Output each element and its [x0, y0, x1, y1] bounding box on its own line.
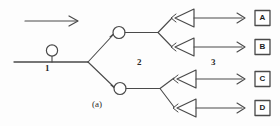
amplifier-c-icon[interactable]: [173, 70, 245, 88]
terminal-label-c: C: [256, 72, 270, 86]
stage-3-label: 3: [211, 58, 216, 67]
flow-direction-arrow-icon: [25, 16, 78, 26]
terminal-label-b: B: [256, 40, 270, 54]
branch-to-amp-d: [160, 89, 174, 108]
figure-canvas: 1 2 3 (a) A B C D: [0, 0, 280, 126]
stage-1-label: 1: [45, 64, 50, 73]
branch-to-amp-b: [158, 33, 172, 48]
branch-to-amp-c: [160, 78, 174, 89]
amplifier-a-icon[interactable]: [171, 9, 245, 27]
branch-lower-1: [88, 62, 114, 87]
branch-upper-1: [88, 35, 113, 62]
amplifier-b-icon[interactable]: [171, 38, 245, 56]
node-1-tap[interactable]: [46, 45, 57, 62]
terminal-label-d: D: [256, 101, 270, 115]
terminal-label-a: A: [256, 11, 270, 25]
stage-2-label: 2: [137, 58, 142, 67]
node-2-upper-tap[interactable]: [110, 27, 125, 39]
amplifier-d-icon[interactable]: [173, 99, 245, 117]
node-2-lower-tap[interactable]: [111, 83, 126, 95]
figure-caption: (a): [92, 100, 102, 109]
branch-to-amp-a: [158, 18, 172, 33]
